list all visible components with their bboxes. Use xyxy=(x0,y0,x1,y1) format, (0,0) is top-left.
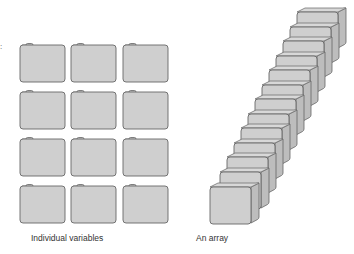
array-label: An array xyxy=(196,233,228,243)
variable-box xyxy=(20,185,65,224)
variable-box xyxy=(20,138,65,177)
variable-box xyxy=(123,44,168,83)
variable-box xyxy=(71,91,116,130)
individual-variables-label: Individual variables xyxy=(31,233,103,243)
variable-box xyxy=(71,44,116,83)
individual-variables-grid xyxy=(20,44,168,224)
variable-box xyxy=(20,44,65,83)
array-stack xyxy=(210,8,346,224)
array-element xyxy=(210,183,259,224)
variable-box xyxy=(123,185,168,224)
variable-box xyxy=(123,138,168,177)
variable-box xyxy=(20,91,65,130)
diagram-canvas xyxy=(0,0,354,254)
variable-box xyxy=(71,138,116,177)
variable-box xyxy=(123,91,168,130)
variable-box xyxy=(71,185,116,224)
